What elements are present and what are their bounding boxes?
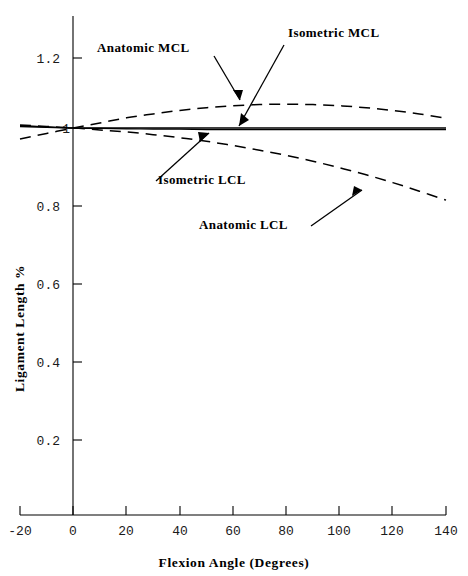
x-ticklabel-0: 0 bbox=[69, 524, 77, 539]
curve-anatomic-lcl bbox=[20, 125, 446, 200]
x-ticklabel-140: 140 bbox=[434, 524, 457, 539]
x-ticklabel-60: 60 bbox=[225, 524, 241, 539]
arrowhead-isometric-mcl bbox=[239, 113, 249, 126]
annotation-label-isometric-lcl: Isometric LCL bbox=[158, 172, 246, 187]
annotation-anatomic-mcl: Anatomic MCL bbox=[97, 40, 243, 100]
annotation-label-anatomic-lcl: Anatomic LCL bbox=[199, 217, 288, 232]
y-ticklabel-0.6: 0.6 bbox=[37, 278, 60, 293]
x-ticklabel--20: -20 bbox=[8, 524, 31, 539]
x-axis: -20 0 20 40 60 80 100 120 140 Flexion An… bbox=[8, 506, 457, 570]
x-ticklabel-80: 80 bbox=[278, 524, 294, 539]
leader-anatomic-lcl bbox=[311, 190, 362, 226]
annotation-label-isometric-mcl: Isometric MCL bbox=[288, 25, 379, 40]
annotation-isometric-mcl: Isometric MCL bbox=[239, 25, 379, 126]
annotation-isometric-lcl: Isometric LCL bbox=[156, 132, 246, 187]
leader-isometric-mcl bbox=[239, 45, 284, 126]
chart-figure: 1.2 1 0.8 0.6 0.4 0.2 Ligament Length % … bbox=[0, 0, 468, 576]
annotation-anatomic-lcl: Anatomic LCL bbox=[199, 186, 362, 232]
y-ticklabel-0.2: 0.2 bbox=[37, 434, 60, 449]
chart-svg: 1.2 1 0.8 0.6 0.4 0.2 Ligament Length % … bbox=[0, 0, 468, 576]
y-ticklabel-0.4: 0.4 bbox=[37, 356, 61, 371]
x-ticklabel-100: 100 bbox=[327, 524, 350, 539]
y-axis-title: Ligament Length % bbox=[12, 265, 27, 392]
x-axis-title: Flexion Angle (Degrees) bbox=[159, 555, 310, 570]
y-axis: 1.2 1 0.8 0.6 0.4 0.2 Ligament Length % bbox=[12, 16, 82, 515]
curve-anatomic-mcl bbox=[20, 104, 446, 139]
arrowhead-anatomic-mcl bbox=[233, 90, 243, 100]
x-ticklabel-120: 120 bbox=[380, 524, 403, 539]
x-ticklabel-40: 40 bbox=[172, 524, 188, 539]
annotation-label-anatomic-mcl: Anatomic MCL bbox=[97, 40, 190, 55]
x-ticklabel-20: 20 bbox=[118, 524, 134, 539]
y-ticklabel-0.8: 0.8 bbox=[37, 200, 60, 215]
y-ticklabel-1.2: 1.2 bbox=[37, 52, 60, 67]
